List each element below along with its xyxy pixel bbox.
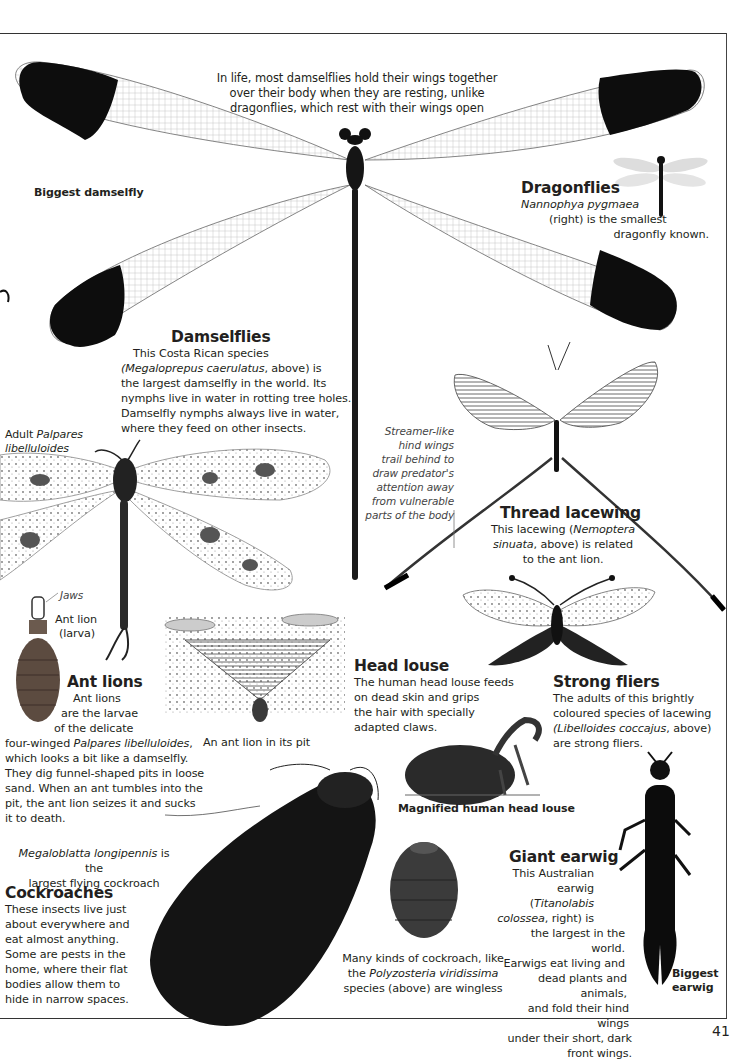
pit-caption: An ant lion in its pit bbox=[203, 736, 310, 750]
giant-earwig-heading: Giant earwig bbox=[509, 848, 618, 866]
dragonflies-heading: Dragonflies bbox=[521, 179, 620, 197]
damselflies-text: This Costa Rican species (Megaloprepus c… bbox=[121, 346, 401, 436]
strong-fliers-text: The adults of this brightly coloured spe… bbox=[553, 691, 723, 751]
page-number: 41 bbox=[712, 1023, 730, 1039]
head-louse-text: The human head louse feeds on dead skin … bbox=[354, 675, 514, 735]
thread-lacewing-heading: Thread lacewing bbox=[500, 504, 641, 522]
streamer-note: Streamer-like hind wings trail behind to… bbox=[350, 424, 454, 522]
damselflies-heading: Damselflies bbox=[171, 328, 270, 346]
biggest-earwig-label: Biggest earwig bbox=[672, 967, 712, 995]
head-louse-caption: Magnified human head louse bbox=[398, 802, 575, 816]
biggest-damselfly-label: Biggest damselfly bbox=[34, 186, 144, 200]
libelloides-illustration bbox=[463, 575, 655, 665]
ant-lions-heading: Ant lions bbox=[67, 673, 143, 691]
ant-lion-larva-label: Ant lion (larva) bbox=[55, 613, 97, 641]
giant-earwig-text: This Australian earwig (Titanolabis colo… bbox=[496, 866, 632, 1061]
wingless-note: Many kinds of cockroach, like the Polyzo… bbox=[338, 951, 508, 996]
intro-note: In life, most damselflies hold their win… bbox=[212, 71, 502, 116]
jaws-label: Jaws bbox=[60, 588, 83, 603]
dragonflies-text: Nannophya pygmaea (right) is the smalles… bbox=[521, 197, 709, 242]
insect-fragment-icon bbox=[0, 291, 9, 302]
wingless-cockroach-illustration bbox=[390, 842, 458, 938]
head-louse-heading: Head louse bbox=[354, 657, 449, 675]
thread-lacewing-text: This lacewing (Nemoptera sinuata, above)… bbox=[488, 522, 638, 567]
adult-palpares-label: Adult Palpares libelluloides bbox=[5, 428, 83, 456]
strong-fliers-heading: Strong fliers bbox=[553, 673, 660, 691]
ant-lions-text: Ant lions are the larvae of the delicate… bbox=[5, 691, 205, 826]
cockroaches-text: These insects live just about everywhere… bbox=[5, 902, 155, 1007]
cockroaches-heading: Cockroaches bbox=[5, 884, 113, 902]
